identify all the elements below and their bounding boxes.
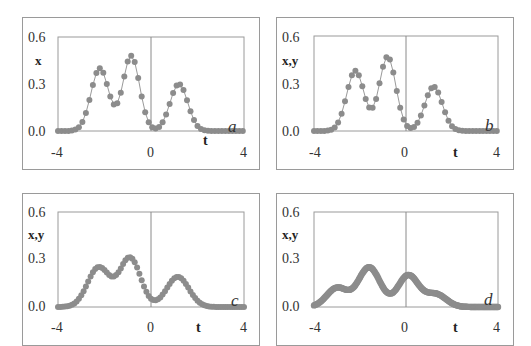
data-point <box>240 128 246 134</box>
x-axis-label: t <box>203 134 208 148</box>
data-point <box>377 80 383 86</box>
data-point <box>335 119 341 125</box>
data-point <box>380 64 386 70</box>
data-point <box>415 120 421 126</box>
panel-letter: b <box>485 117 494 134</box>
data-point <box>439 99 445 105</box>
data-point <box>359 83 365 89</box>
ytick-0.0: 0.0 <box>282 125 300 139</box>
data-point <box>170 90 176 96</box>
ytick-0.3: 0.3 <box>28 252 46 266</box>
data-point <box>160 119 166 125</box>
y-axis-label: x <box>35 54 42 67</box>
data-point <box>86 97 92 103</box>
data-point <box>163 112 169 118</box>
xtick-4: 4 <box>240 321 247 335</box>
data-point <box>132 259 138 265</box>
ytick-0.0: 0.0 <box>282 300 300 314</box>
data-point <box>446 118 452 124</box>
ytick-0.3: 0.3 <box>282 78 300 92</box>
data-point <box>191 117 197 123</box>
data-point <box>421 103 427 109</box>
data-point <box>118 90 124 96</box>
data-point <box>100 70 106 76</box>
xtick-neg4: -4 <box>51 321 63 335</box>
data-point <box>442 109 448 115</box>
data-point <box>432 84 438 90</box>
xtick-0: 0 <box>401 146 408 160</box>
data-point <box>128 53 134 59</box>
panel-letter: d <box>484 291 493 308</box>
data-point <box>339 111 345 117</box>
data-point <box>387 56 393 62</box>
data-point <box>346 84 352 90</box>
data-point <box>125 59 131 65</box>
data-point <box>136 271 142 277</box>
data-point <box>241 304 247 310</box>
xtick-0: 0 <box>147 321 154 335</box>
xtick-4: 4 <box>493 321 500 335</box>
ytick-0.0: 0.0 <box>28 125 46 139</box>
panel-a: 0.6 x 0.3 0.0 -4 0 4 t a <box>22 17 260 170</box>
ytick-0.3: 0.3 <box>282 252 300 266</box>
y-axis-label: x,y <box>282 228 298 241</box>
data-point <box>79 119 85 125</box>
panel-c: 0.6 x,y 0.3 0.0 -4 0 4 t c <box>22 193 260 346</box>
data-point <box>356 72 362 78</box>
data-point <box>188 108 194 114</box>
xtick-0: 0 <box>147 146 154 160</box>
data-point <box>181 87 187 93</box>
ytick-0.0: 0.0 <box>28 300 46 314</box>
panel-b: 0.6 x,y 0.3 0.0 -4 0 4 t b <box>276 17 514 170</box>
xtick-neg4: -4 <box>309 321 321 335</box>
x-axis-label: t <box>196 321 201 335</box>
data-point <box>363 96 369 102</box>
data-point <box>332 124 338 130</box>
data-point <box>139 94 145 100</box>
data-point <box>373 96 379 102</box>
data-point <box>142 109 148 115</box>
data-point <box>139 277 145 283</box>
x-axis-label: t <box>453 321 458 335</box>
data-point <box>76 124 82 130</box>
xtick-4: 4 <box>240 146 247 160</box>
xtick-neg4: -4 <box>309 146 321 160</box>
data-point <box>135 75 141 81</box>
panel-letter: a <box>228 118 237 135</box>
data-point <box>401 117 407 123</box>
y-axis-label: x,y <box>28 228 44 241</box>
data-point <box>342 98 348 104</box>
data-point <box>418 112 424 118</box>
y-axis-label: x,y <box>282 54 298 67</box>
data-point <box>83 110 89 116</box>
ytick-0.6: 0.6 <box>282 206 300 220</box>
panel-letter: c <box>231 292 239 309</box>
data-point <box>425 92 431 98</box>
data-point <box>397 105 403 111</box>
data-point <box>141 284 147 290</box>
data-point <box>132 59 138 65</box>
data-point <box>435 89 441 95</box>
data-point <box>370 105 376 111</box>
data-point <box>107 94 113 100</box>
data-point <box>134 265 140 271</box>
ytick-0.6: 0.6 <box>28 206 46 220</box>
ytick-0.6: 0.6 <box>282 31 300 45</box>
data-point <box>390 70 396 76</box>
data-point <box>494 128 500 134</box>
ytick-0.3: 0.3 <box>28 78 46 92</box>
xtick-neg4: -4 <box>51 146 63 160</box>
xtick-0: 0 <box>401 321 408 335</box>
data-point <box>121 74 127 80</box>
ytick-0.6: 0.6 <box>28 31 46 45</box>
data-point <box>146 119 152 125</box>
data-point <box>394 88 400 94</box>
panel-d: 0.6 x,y 0.3 0.0 -4 0 4 t d <box>276 193 514 346</box>
data-point <box>184 97 190 103</box>
data-point <box>104 81 110 87</box>
data-point <box>495 304 501 310</box>
series-line <box>58 56 243 131</box>
data-point <box>167 101 173 107</box>
data-point <box>114 100 120 106</box>
data-point <box>90 82 96 88</box>
